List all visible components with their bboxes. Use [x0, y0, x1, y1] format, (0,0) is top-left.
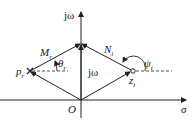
zero-vector-label: Ni	[104, 44, 113, 58]
psi-label: ψi	[144, 58, 153, 72]
jw-axis-label: jω	[64, 10, 74, 21]
zero-label: zi	[129, 75, 135, 89]
pole-vector-M	[30, 44, 80, 71]
sigma-axis-label: σ	[181, 104, 186, 115]
s-plane-diagram: jω σ O pr zi Mr Ni jω θr ψi	[0, 0, 194, 123]
pole-vector-label: Mr	[40, 47, 52, 61]
origin-label: O	[68, 104, 76, 115]
jw-vector-label: jω	[88, 67, 98, 78]
theta-label: θr	[58, 58, 66, 72]
pole-label: pr	[16, 66, 24, 80]
diagram-graphics	[0, 0, 194, 123]
origin-to-pole	[31, 72, 81, 100]
theta-arc	[55, 61, 57, 71]
zero-marker-icon	[131, 69, 135, 73]
